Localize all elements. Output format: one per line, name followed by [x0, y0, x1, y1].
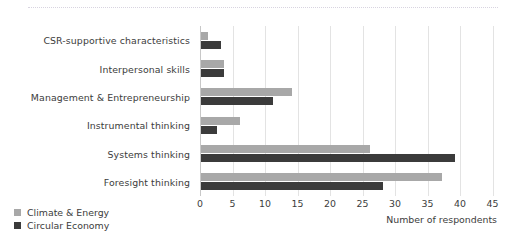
gridline	[460, 26, 461, 196]
x-tick-label: 20	[324, 198, 336, 209]
x-tick-label: 35	[422, 198, 434, 209]
x-tick-label: 10	[259, 198, 271, 209]
chart-legend: Climate & EnergyCircular Economy	[14, 206, 109, 232]
x-tick-label: 0	[197, 198, 203, 209]
legend-swatch-icon	[14, 222, 21, 229]
bar	[201, 145, 370, 153]
legend-label: Circular Economy	[27, 220, 109, 231]
bar	[201, 126, 217, 134]
bar	[201, 60, 224, 68]
gridline	[265, 26, 266, 196]
legend-item[interactable]: Circular Economy	[14, 219, 109, 232]
category-label: Systems thinking	[107, 148, 190, 159]
gridline	[428, 26, 429, 196]
gridline	[233, 26, 234, 196]
bar	[201, 69, 224, 77]
x-tick-label: 45	[487, 198, 499, 209]
category-label: Management & Entrepreneurship	[31, 91, 190, 102]
plot-area	[200, 26, 493, 196]
gridline	[330, 26, 331, 196]
gridline	[200, 26, 201, 196]
category-label: CSR-supportive characteristics	[43, 35, 190, 46]
x-tick-label: 15	[292, 198, 304, 209]
category-label: Foresight thinking	[104, 176, 190, 187]
gridline	[395, 26, 396, 196]
category-axis-labels: CSR-supportive characteristicsInterperso…	[0, 26, 195, 196]
x-tick-label: 40	[454, 198, 466, 209]
bar	[201, 117, 240, 125]
gridline	[493, 26, 494, 196]
bar	[201, 154, 455, 162]
legend-swatch-icon	[14, 209, 21, 216]
x-axis-title: Number of respondents	[386, 214, 497, 225]
legend-item[interactable]: Climate & Energy	[14, 206, 109, 219]
legend-label: Climate & Energy	[27, 207, 109, 218]
bar	[201, 182, 383, 190]
top-dotted-divider	[28, 7, 498, 9]
gridline	[298, 26, 299, 196]
x-tick-label: 25	[357, 198, 369, 209]
bar	[201, 97, 273, 105]
gridline	[363, 26, 364, 196]
category-label: Instrumental thinking	[87, 120, 190, 131]
bar	[201, 41, 221, 49]
bar	[201, 88, 292, 96]
bar	[201, 173, 442, 181]
x-tick-label: 30	[389, 198, 401, 209]
category-label: Interpersonal skills	[100, 63, 190, 74]
bar-chart: CSR-supportive characteristicsInterperso…	[0, 0, 525, 250]
x-axis-ticks: 051015202530354045	[200, 198, 493, 214]
x-tick-label: 5	[230, 198, 236, 209]
bar	[201, 32, 208, 40]
